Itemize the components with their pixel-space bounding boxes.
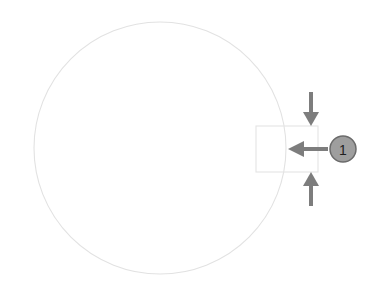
callout-badge-label: 1 [339, 142, 347, 158]
callout-badge-1[interactable]: 1 [330, 136, 356, 162]
arrow-down-icon [303, 92, 319, 126]
diagram-canvas: 1 [0, 0, 386, 290]
arrow-up-icon [303, 172, 319, 206]
arrow-left-icon [288, 141, 328, 157]
main-circle-outline [34, 22, 286, 274]
technical-diagram: 1 [0, 0, 386, 290]
